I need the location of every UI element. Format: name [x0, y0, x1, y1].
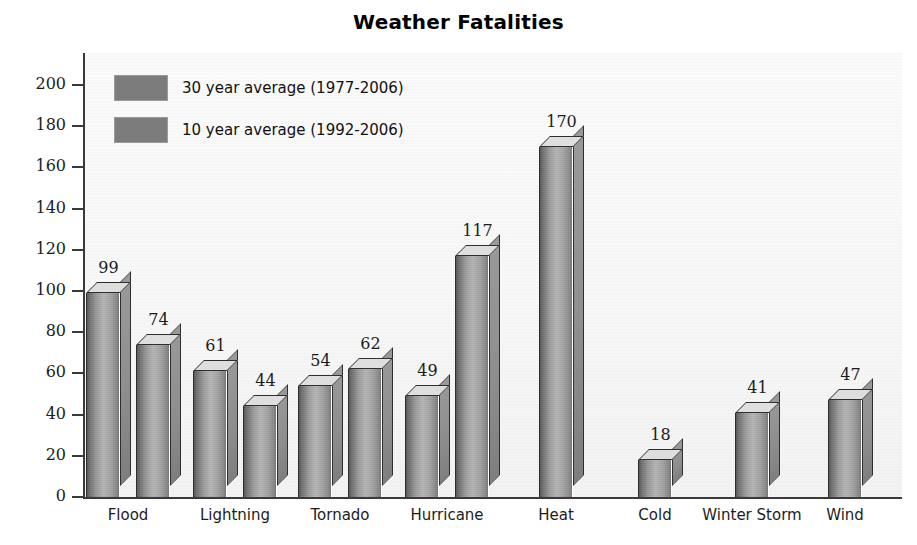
y-axis-tick-label-wrap: 0 [0, 488, 66, 504]
y-axis-tick-label-wrap: 20 [0, 447, 66, 463]
legend-swatch-icon-30-year [114, 75, 168, 101]
bar-front-face [348, 369, 382, 497]
bar-value-label: 41 [722, 380, 793, 396]
bar-hurricane-series-2 [455, 245, 500, 497]
bar-value-label: 62 [335, 336, 406, 352]
y-axis-tick-label: 60 [14, 364, 66, 380]
bar-tornado-series-1 [298, 375, 343, 497]
bar-lightning-series-2 [243, 395, 288, 497]
bar-value-label: 18 [625, 427, 696, 443]
y-axis-tick-label-wrap: 140 [0, 200, 66, 216]
bar-value-label: 54 [285, 353, 356, 369]
chart-title: Weather Fatalities [0, 10, 917, 34]
bar-value-label: 49 [392, 363, 463, 379]
bar-value-label: 99 [73, 260, 144, 276]
y-axis-tick-label: 0 [14, 488, 66, 504]
bar-cold-series-1 [638, 449, 683, 497]
bar-tornado-series-2 [348, 358, 393, 497]
y-axis-tick [72, 372, 84, 374]
y-axis-tick-label-wrap: 120 [0, 241, 66, 257]
bar-front-face [298, 386, 332, 497]
bar-side-face [573, 125, 584, 486]
bar-front-face [735, 413, 769, 497]
y-axis-tick-label-wrap: 40 [0, 406, 66, 422]
bar-front-face [539, 147, 573, 497]
y-axis-tick-label-wrap: 100 [0, 282, 66, 298]
bar-value-label: 74 [123, 312, 194, 328]
y-axis-tick [72, 249, 84, 251]
y-axis-tick [72, 414, 84, 416]
bar-front-face [243, 406, 277, 497]
bar-wind-series-1 [828, 389, 873, 497]
y-axis-tick-label-wrap: 80 [0, 323, 66, 339]
bar-front-face [193, 371, 227, 497]
legend-label-30-year: 30 year average (1977-2006) [182, 79, 404, 97]
x-axis-line [83, 497, 902, 499]
bar-side-face [120, 271, 131, 486]
bar-front-face [638, 460, 672, 497]
bar-front-face [455, 256, 489, 497]
y-axis-tick-label: 160 [14, 158, 66, 174]
bar-front-face [136, 345, 170, 497]
bar-value-label: 44 [230, 373, 301, 389]
y-axis-tick-label: 140 [14, 200, 66, 216]
y-axis-tick-label: 120 [14, 241, 66, 257]
x-axis-label-wind: Wind [775, 506, 915, 524]
bar-hurricane-series-1 [405, 385, 450, 497]
bar-front-face [828, 400, 862, 497]
y-axis-tick [72, 455, 84, 457]
bar-value-label: 47 [815, 367, 886, 383]
bar-side-face [227, 349, 238, 486]
y-axis-tick-label-wrap: 160 [0, 158, 66, 174]
y-axis-tick [72, 331, 84, 333]
weather-fatalities-chart: Weather Fatalities 020406080100120140160… [0, 0, 917, 545]
y-axis-tick-label: 80 [14, 323, 66, 339]
bar-heat-series-1 [539, 136, 584, 497]
y-axis-tick [72, 208, 84, 210]
y-axis-tick-label-wrap: 60 [0, 364, 66, 380]
legend-label-10-year: 10 year average (1992-2006) [182, 121, 404, 139]
y-axis-tick-label: 20 [14, 447, 66, 463]
legend-swatch-icon-10-year [114, 117, 168, 143]
y-axis-tick-label-wrap: 200 [0, 76, 66, 92]
bar-value-label: 170 [526, 114, 597, 130]
y-axis-tick-label: 40 [14, 406, 66, 422]
bar-winter-storm-series-1 [735, 402, 780, 497]
bar-front-face [405, 396, 439, 497]
y-axis-tick [72, 125, 84, 127]
y-axis-tick-label-wrap: 180 [0, 117, 66, 133]
bar-front-face [86, 293, 120, 497]
y-axis-tick [72, 166, 84, 168]
bar-side-face [489, 234, 500, 486]
y-axis-tick-label: 100 [14, 282, 66, 298]
y-axis-tick-label: 180 [14, 117, 66, 133]
bar-flood-series-2 [136, 334, 181, 497]
bar-value-label: 117 [442, 223, 513, 239]
bar-value-label: 61 [180, 338, 251, 354]
y-axis-tick [72, 84, 84, 86]
y-axis-tick-label: 200 [14, 76, 66, 92]
y-axis-tick [72, 496, 84, 498]
y-axis-tick [72, 290, 84, 292]
